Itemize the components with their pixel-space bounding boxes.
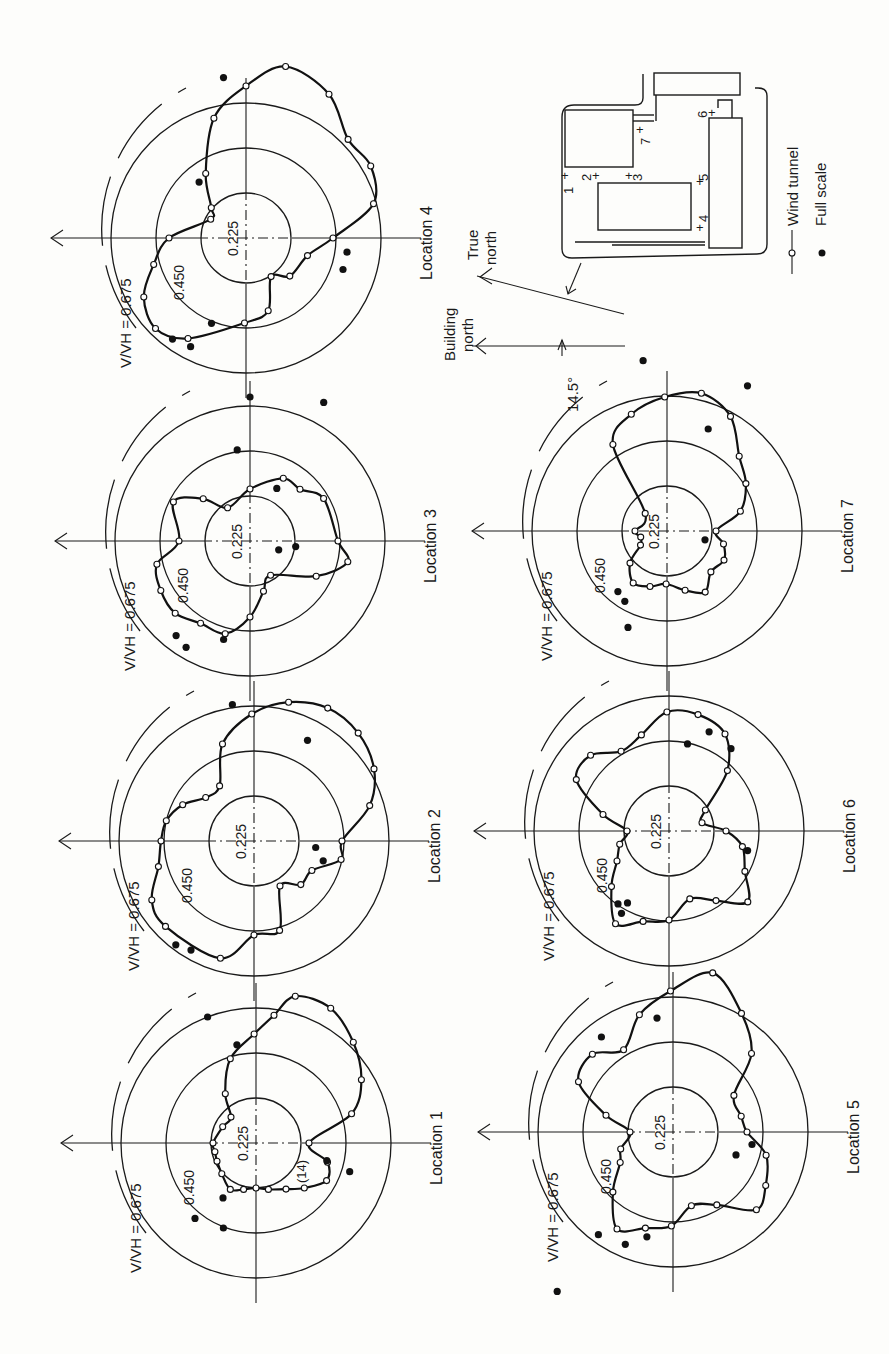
full-scale-point: [595, 1231, 602, 1238]
wind-tunnel-point: [753, 1207, 759, 1213]
wind-tunnel-point: [211, 115, 217, 121]
wind-tunnel-point: [618, 1146, 624, 1152]
true-north-arrow: [477, 276, 624, 314]
wind-tunnel-point: [153, 326, 159, 332]
full-scale-point: [292, 543, 299, 550]
wind-tunnel-point: [321, 496, 327, 502]
wind-tunnel-point: [739, 1010, 745, 1016]
ring-label-0450: 0.450: [598, 1159, 614, 1194]
angle-label: 14.5°: [564, 377, 581, 412]
wind-tunnel-point: [609, 884, 615, 890]
full-scale-point: [727, 745, 734, 752]
location-label: Location 6: [841, 799, 858, 873]
wind-tunnel-point: [271, 1012, 277, 1018]
location-label: Location 4: [418, 206, 435, 280]
location-label: Location 5: [845, 1100, 862, 1174]
wind-tunnel-point: [627, 1129, 633, 1135]
wind-tunnel-point: [698, 390, 704, 396]
wind-tunnel-point: [371, 201, 377, 207]
ring-label-0225: 0.225: [652, 1115, 668, 1150]
full-scale-point: [234, 446, 241, 453]
wind-tunnel-point: [200, 496, 206, 502]
wind-tunnel-point: [600, 812, 606, 818]
wind-tunnel-point: [228, 1114, 234, 1120]
location-label: Location 3: [422, 509, 439, 583]
plan-location-7: 7: [638, 138, 653, 145]
full-scale-point: [323, 1157, 330, 1164]
wind-tunnel-point: [247, 486, 253, 492]
location-label: Location 2: [426, 809, 443, 883]
true-north-label-2: north: [482, 231, 499, 265]
wind-tunnel-point: [713, 898, 719, 904]
wind-tunnel-point: [328, 1005, 334, 1011]
wind-tunnel-point: [745, 899, 751, 905]
wind-tunnel-point: [628, 411, 634, 417]
full-scale-point: [684, 740, 691, 747]
wind-tunnel-point: [338, 857, 344, 863]
wind-tunnel-point: [313, 573, 319, 579]
wind-tunnel-point: [743, 481, 749, 487]
plan-cross-7: +: [636, 122, 644, 137]
wind-tunnel-point: [172, 610, 178, 616]
building-north-label-1: Building: [441, 308, 458, 361]
wind-tunnel-point: [614, 1226, 620, 1232]
full-scale-point: [312, 844, 319, 851]
location-label: Location 7: [839, 499, 856, 573]
wind-tunnel-point: [708, 569, 714, 575]
full-scale-point: [219, 1194, 226, 1201]
wind-tunnel-point: [613, 921, 619, 927]
full-scale-point: [339, 266, 346, 273]
wind-tunnel-point: [298, 882, 304, 888]
ratio-label: V/VH = 0.675: [121, 581, 138, 671]
wind-tunnel-point: [287, 273, 293, 279]
wind-tunnel-point: [217, 955, 223, 961]
plan-cross-6: +: [708, 105, 716, 120]
wind-tunnel-point: [227, 1186, 233, 1192]
plan-location-1: 1: [561, 187, 576, 194]
wind-tunnel-point: [710, 970, 716, 976]
full-scale-point: [204, 1013, 211, 1020]
polar-plot-location-6: 0.2250.450V/VH = 0.675Location 6: [474, 671, 858, 991]
wind-tunnel-point: [251, 932, 257, 938]
wind-tunnel-point: [203, 795, 209, 801]
wind-tunnel-point: [724, 768, 730, 774]
plan-location-marks: 1 + 2 + 3 + 4 + 5 + 6 + 7 +: [561, 105, 716, 235]
plan-block-c: [654, 73, 740, 95]
plan-connector-2: [718, 100, 732, 118]
wind-tunnel-point: [371, 766, 377, 772]
wind-tunnel-point: [283, 64, 289, 70]
wind-tunnel-point: [603, 1112, 609, 1118]
polar-plot-location-2: 0.2250.450V/VH = 0.675Location 2: [59, 681, 443, 1001]
wind-tunnel-point: [350, 1039, 356, 1045]
wind-tunnel-point: [636, 1012, 642, 1018]
true-north-arrowhead-icon: [480, 268, 492, 284]
full-scale-point: [187, 343, 194, 350]
wind-tunnel-point: [576, 1079, 582, 1085]
wind-tunnel-point: [305, 253, 311, 259]
wind-tunnel-point: [277, 883, 283, 889]
wind-tunnel-point: [243, 83, 249, 89]
wind-tunnel-point: [638, 542, 644, 548]
wind-tunnel-point: [219, 1171, 225, 1177]
wind-tunnel-point: [227, 1056, 233, 1062]
wind-tunnel-curve: [152, 702, 375, 958]
wind-tunnel-point: [664, 709, 670, 715]
full-scale-point: [343, 249, 350, 256]
wind-tunnel-point: [253, 1185, 259, 1191]
wind-tunnel-point: [721, 557, 727, 563]
wind-tunnel-point: [640, 918, 646, 924]
wind-tunnel-point: [170, 499, 176, 505]
ring-label-0225: 0.225: [235, 1126, 251, 1161]
full-scale-point: [172, 941, 179, 948]
wind-tunnel-point: [721, 541, 727, 547]
full-scale-point: [173, 632, 180, 639]
ratio-label: V/VH = 0.675: [125, 881, 142, 971]
wind-tunnel-point: [617, 1160, 623, 1166]
wind-tunnel-point: [668, 988, 674, 994]
polar-plots: 0.2250.450V/VH = 0.675Location 40.2250.4…: [51, 64, 862, 1304]
wind-tunnel-point: [339, 838, 345, 844]
wind-tunnel-point: [739, 844, 745, 850]
full-scale-point: [701, 536, 708, 543]
ratio-label: V/VH = 0.675: [538, 571, 555, 661]
wind-tunnel-point: [158, 838, 164, 844]
